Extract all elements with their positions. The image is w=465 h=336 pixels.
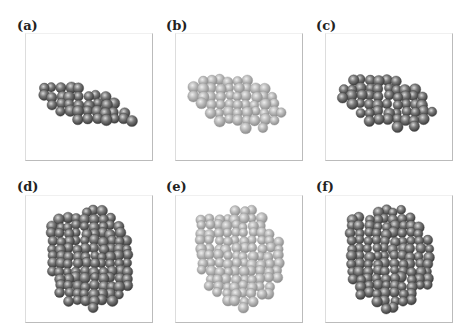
- panel-a-cluster-image: [25, 33, 153, 161]
- panel-f-cluster-image: [325, 195, 453, 323]
- panel-d-cluster-image: [25, 195, 153, 323]
- panel-b-cluster-image: [175, 33, 303, 161]
- panel-label-b: (b): [166, 18, 187, 33]
- panel-label-d: (d): [17, 179, 38, 194]
- panel-c-cluster-image: [325, 33, 453, 161]
- panel-e-cluster-image: [175, 195, 303, 323]
- panel-label-a: (a): [17, 18, 38, 33]
- panel-label-e: (e): [166, 179, 187, 194]
- panel-label-c: (c): [316, 18, 336, 33]
- panel-label-f: (f): [316, 179, 334, 194]
